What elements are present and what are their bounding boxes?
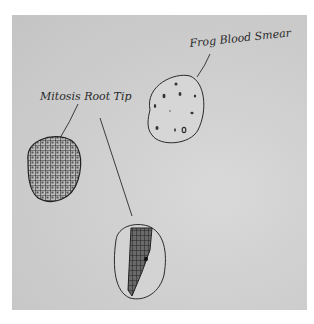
frog-blood-smear-circle <box>148 75 204 143</box>
sketch-canvas: Frog Blood Smear Mitosis Root Tip <box>0 0 314 324</box>
leader-line-frog <box>197 54 210 77</box>
label-mitosis-root-tip: Mitosis Root Tip <box>39 90 131 103</box>
leader-line-root-tip <box>100 118 132 216</box>
root-tip-circle <box>114 225 165 299</box>
mitosis-cells-circle <box>28 137 81 202</box>
label-frog-blood-smear: Frog Blood Smear <box>188 26 292 50</box>
leader-line-mitosis <box>60 104 78 138</box>
